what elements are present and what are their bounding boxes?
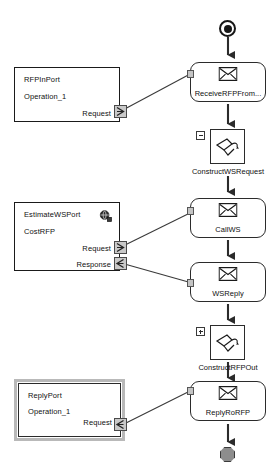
activity-construct-ws-request[interactable] — [210, 129, 245, 164]
port-role-request: Request — [83, 418, 112, 427]
start-event-node[interactable] — [219, 20, 236, 37]
activity-socket[interactable] — [187, 387, 194, 395]
port-operation: Operation_1 — [24, 92, 66, 101]
minus-box-icon[interactable] — [196, 131, 205, 140]
assign-arrow-icon — [215, 332, 241, 354]
activity-label: ReceiveRFPFrom... — [191, 89, 265, 98]
partner-link-estimate-ws-port[interactable]: EstimateWSPort CostRFP Request Response — [14, 202, 120, 271]
activity-reply-ro-rfp[interactable]: ReplyRoRFP — [190, 381, 266, 421]
partner-link-reply-port[interactable]: ReplyPort Operation_1 Request — [18, 383, 121, 437]
port-role-request: Request — [82, 109, 111, 118]
activity-label: CallWS — [191, 225, 265, 234]
activity-ws-reply[interactable]: WSReply — [190, 262, 266, 302]
activity-label: ConstructWSRequest — [168, 167, 277, 176]
activity-label: ConstructRFPOut — [172, 363, 277, 372]
port-operation: Operation_1 — [28, 407, 70, 416]
request-chevron-icon[interactable] — [114, 241, 127, 254]
plus-box-icon[interactable] — [196, 327, 205, 336]
activity-call-ws[interactable]: CallWS — [190, 198, 266, 238]
port-role-response: Response — [76, 260, 111, 269]
end-event-node[interactable] — [220, 447, 235, 462]
port-title: EstimateWSPort — [24, 210, 80, 219]
response-chevron-icon[interactable] — [114, 418, 127, 431]
port-operation: CostRFP — [24, 227, 55, 236]
envelope-icon — [219, 67, 238, 81]
activity-receive-rfp[interactable]: ReceiveRFPFrom... — [190, 62, 266, 102]
activity-socket[interactable] — [187, 279, 194, 287]
request-chevron-icon[interactable] — [114, 105, 127, 118]
port-role-request: Request — [82, 244, 111, 253]
response-chevron-icon[interactable] — [114, 257, 127, 270]
envelope-icon — [219, 267, 238, 281]
port-title: RFPInPort — [24, 75, 60, 84]
assign-arrow-icon — [215, 136, 241, 158]
activity-socket[interactable] — [187, 70, 194, 78]
bpel-diagram-canvas: RFPInPort Operation_1 Request ReceiveRFP… — [0, 0, 277, 473]
envelope-icon — [219, 386, 238, 400]
port-title: ReplyPort — [28, 391, 62, 400]
activity-socket[interactable] — [187, 207, 194, 215]
activity-label: WSReply — [191, 289, 265, 298]
activity-construct-rfp-out[interactable] — [210, 325, 245, 360]
envelope-icon — [219, 203, 238, 217]
partner-link-rfp-in-port[interactable]: RFPInPort Operation_1 Request — [14, 67, 120, 122]
globe-icon — [99, 208, 112, 220]
activity-label: ReplyRoRFP — [191, 408, 265, 417]
